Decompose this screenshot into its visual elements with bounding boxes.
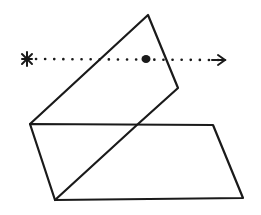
diagram-canvas bbox=[0, 0, 261, 215]
ray-dotted-line bbox=[36, 59, 220, 60]
intersection-point bbox=[142, 55, 151, 63]
asterisk-icon bbox=[22, 52, 32, 66]
arrow-head-icon bbox=[212, 55, 225, 65]
horizontal-plane bbox=[30, 124, 243, 200]
tilted-plane bbox=[30, 15, 178, 200]
